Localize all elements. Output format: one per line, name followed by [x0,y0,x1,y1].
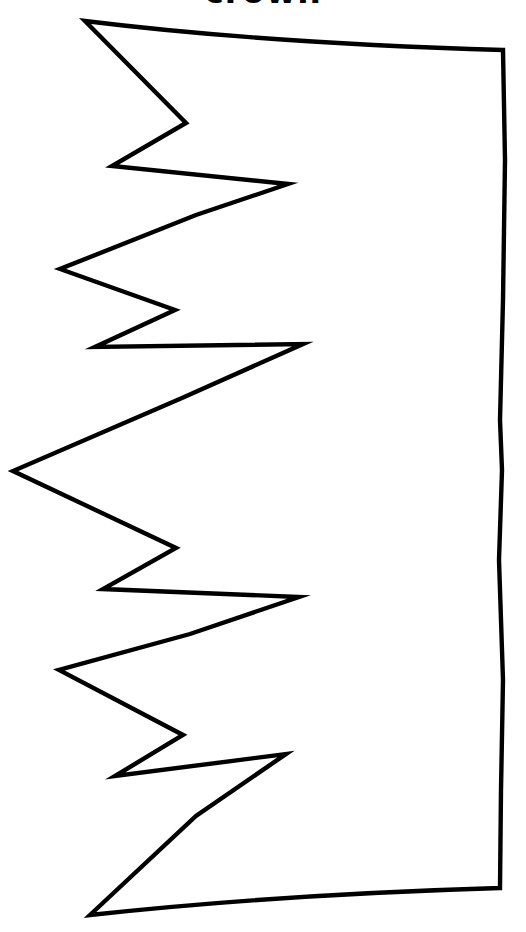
coloring-page: crown [0,0,526,932]
crown-template-outline [0,0,526,932]
crown-outline-path [13,21,505,915]
